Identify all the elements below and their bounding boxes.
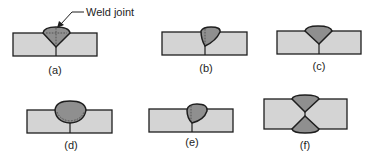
panel-e: (e) <box>149 104 233 148</box>
panel-d: (d) <box>27 101 112 151</box>
callout-leader <box>61 12 84 24</box>
panel-b: (b) <box>162 27 247 74</box>
panel-label: (d) <box>64 139 77 151</box>
panel-label: (b) <box>199 62 212 74</box>
panel-label: (a) <box>48 64 61 76</box>
panel-f: (f) <box>264 95 347 151</box>
panel-a: Weld joint (a) <box>13 6 134 76</box>
weld-bead <box>55 101 86 123</box>
weld-joint-diagram: Weld joint (a) (b) (c) (d) (e) <box>0 0 381 159</box>
panel-label: (c) <box>313 60 326 72</box>
panel-label: (f) <box>300 139 310 151</box>
panel-label: (e) <box>185 136 198 148</box>
callout-label: Weld joint <box>86 6 134 18</box>
panel-c: (c) <box>277 26 361 72</box>
